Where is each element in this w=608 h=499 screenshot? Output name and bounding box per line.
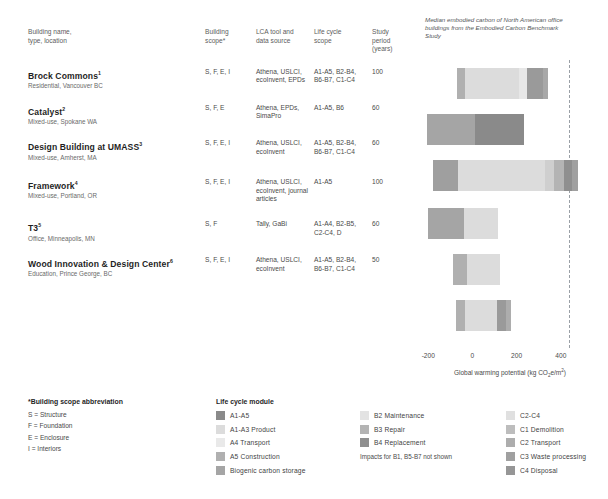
x-axis-tick-label: -200: [422, 352, 435, 359]
x-axis: -2000200400: [415, 352, 605, 364]
legend-scope-title: *Building scope abbreviation: [28, 398, 188, 405]
legend-label: B3 Repair: [374, 426, 405, 433]
building-type-location: Mixed-use, Amherst, MA: [28, 154, 199, 162]
legend-swatch: [216, 438, 225, 447]
building-name: Framework4: [28, 178, 199, 191]
header-lca-tool: LCA tool and data source: [256, 28, 314, 45]
cell-life-cycle-scope: A1-A5, B6: [314, 104, 372, 113]
footnote-marker: 1: [98, 70, 101, 76]
footnote-marker: 3: [139, 141, 142, 147]
cell-building-name: Wood Innovation & Design Center6Educatio…: [28, 256, 205, 279]
footnote-marker: 5: [38, 222, 41, 228]
benchmark-reference-line: [569, 60, 570, 348]
legend-swatch: [506, 438, 515, 447]
chart-bar-segment: [453, 254, 467, 285]
legend-scope-line: S = Structure: [28, 409, 188, 420]
cell-lca-tool: Athena, USLCI, ecoInvent: [256, 256, 314, 273]
legend-scope-lines: S = StructureF = FoundationE = Enclosure…: [28, 409, 188, 455]
legend-item: C4 Disposal: [506, 463, 608, 477]
chart-bar-segment: [467, 254, 500, 285]
chart-bar: [433, 160, 579, 191]
building-type-location: Residential, Vancouver BC: [28, 82, 199, 90]
legend-label: C2-C4: [520, 412, 540, 419]
legend-item: A1-A5: [216, 409, 366, 423]
legend-label: C2 Transport: [520, 439, 560, 446]
cell-building-scope: S, F, E: [205, 104, 256, 113]
legend-item: Biogenic carbon storage: [216, 463, 366, 477]
legend-item: C3 Waste processing: [506, 450, 608, 464]
header-building-scope: Building scope*: [205, 28, 256, 45]
legend-item: A4 Transport: [216, 436, 366, 450]
legend-label: A4 Transport: [230, 439, 270, 446]
chart-bar-segment: [519, 68, 527, 99]
table-row: Wood Innovation & Design Center6Educatio…: [28, 256, 408, 279]
legend-module-title: Life cycle module: [216, 398, 366, 405]
building-table: Building name, type, location Building s…: [28, 28, 408, 292]
header-life-cycle-scope-line2: scope: [314, 37, 368, 46]
legend-swatch: [216, 452, 225, 461]
cell-study-period: 100: [372, 68, 408, 77]
cell-life-cycle-scope: A1-A5: [314, 178, 372, 187]
header-study-period-line1: Study period: [372, 28, 408, 45]
table-header-row: Building name, type, location Building s…: [28, 28, 408, 54]
chart-bar-segment: [543, 68, 547, 99]
legend-swatch: [360, 438, 369, 447]
legend-label: C3 Waste processing: [520, 453, 586, 460]
table-row: Catalyst2Mixed-use, Spokane WAS, F, EAth…: [28, 104, 408, 127]
building-type-location: Mixed-use, Portland, OR: [28, 192, 199, 200]
chart-bar: [453, 254, 501, 285]
legend-label: B2 Maintenance: [374, 412, 424, 419]
chart-bar-segment: [564, 160, 572, 191]
legend-swatch: [506, 425, 515, 434]
legend-item: B2 Maintenance: [360, 409, 510, 423]
cell-building-name: Catalyst2Mixed-use, Spokane WA: [28, 104, 205, 127]
chart-bar-segment: [465, 68, 519, 99]
header-building-name-line2: type, location: [28, 37, 199, 46]
chart-bar-segment: [464, 208, 498, 239]
cell-study-period: 60: [372, 139, 408, 148]
chart-bar-segment: [506, 300, 512, 331]
legend-label: C1 Demolition: [520, 426, 564, 433]
header-life-cycle-scope-line1: Life cycle: [314, 28, 368, 37]
legend-label: A5 Construction: [230, 453, 280, 460]
legend-scope-column: *Building scope abbreviation S = Structu…: [28, 398, 188, 455]
legend-item: A5 Construction: [216, 450, 366, 464]
table-row: Design Building at UMASS3Mixed-use, Amhe…: [28, 139, 408, 162]
legend-swatch: [506, 411, 515, 420]
legend-item: B4 Replacement: [360, 436, 510, 450]
building-type-location: Office, Minneapolis, MN: [28, 235, 199, 243]
cell-building-scope: S, F, E, I: [205, 256, 256, 265]
cell-building-scope: S, F, E, I: [205, 139, 256, 148]
chart-bar: [457, 68, 548, 99]
building-name: Catalyst2: [28, 104, 199, 117]
legend-module-items-c: C2-C4C1 DemolitionC2 TransportC3 Waste p…: [506, 409, 608, 477]
chart-bar-segment: [427, 114, 474, 145]
chart-bar: [456, 300, 511, 331]
legend-swatch: [216, 411, 225, 420]
building-name: Wood Innovation & Design Center6: [28, 256, 199, 269]
cell-building-scope: S, F, E, I: [205, 178, 256, 187]
legend-label: Biogenic carbon storage: [230, 467, 306, 474]
chart-bar-segment: [465, 300, 497, 331]
cell-study-period: 60: [372, 104, 408, 113]
chart-annotation: Median embodied carbon of North American…: [425, 16, 575, 41]
cell-study-period: 100: [372, 178, 408, 187]
chart-bar-segment: [428, 208, 463, 239]
cell-building-name: Brock Commons1Residential, Vancouver BC: [28, 68, 205, 91]
building-name: Brock Commons1: [28, 68, 199, 81]
header-study-period: Study period (years): [372, 28, 408, 54]
legend-scope-line: E = Enclosure: [28, 432, 188, 443]
legend-item: C2 Transport: [506, 436, 608, 450]
chart-bar-segment: [545, 160, 554, 191]
table-row: Framework4Mixed-use, Portland, ORS, F, E…: [28, 178, 408, 204]
x-axis-tick-label: 200: [511, 352, 522, 359]
chart-bar-segment: [458, 160, 545, 191]
legend-item: C1 Demolition: [506, 423, 608, 437]
header-building-scope-line2: scope*: [205, 37, 252, 46]
cell-building-scope: S, F, E, I: [205, 68, 256, 77]
legend-swatch: [506, 466, 515, 475]
cell-building-name: Design Building at UMASS3Mixed-use, Amhe…: [28, 139, 205, 162]
legend-label: A1-A3 Product: [230, 426, 275, 433]
legend-swatch: [216, 466, 225, 475]
building-type-location: Mixed-use, Spokane WA: [28, 118, 199, 126]
